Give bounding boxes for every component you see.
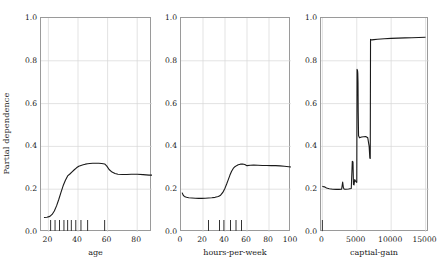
y-tick-label: 1.0	[295, 13, 317, 22]
decile-rug	[51, 220, 105, 231]
y-tick-label: 0.8	[295, 55, 317, 64]
plot-canvas	[41, 18, 152, 232]
y-axis-label: Partial dependence	[0, 0, 13, 267]
y-tick-label: 0.2	[15, 184, 37, 193]
y-tick-label: 0.8	[155, 55, 177, 64]
pdp-line	[322, 37, 425, 189]
pdp-line	[44, 163, 152, 217]
y-tick-label: 0.4	[15, 141, 37, 150]
y-tick-label: 0.6	[155, 98, 177, 107]
y-tick-label: 1.0	[15, 13, 37, 22]
x-axis-label: captial-gain	[350, 248, 398, 257]
plot-canvas	[321, 18, 429, 232]
y-tick-label: 0.2	[295, 184, 317, 193]
plot-area	[320, 17, 428, 231]
y-tick-label: 1.0	[155, 13, 177, 22]
y-tick-label: 0.6	[15, 98, 37, 107]
x-tick-label: 15000	[405, 235, 443, 244]
plot-canvas	[181, 18, 291, 232]
gridlines	[181, 18, 291, 232]
y-tick-label: 0.2	[155, 184, 177, 193]
x-axis-label: hours-per-week	[203, 248, 266, 257]
plot-area	[40, 17, 151, 231]
y-tick-label: 0.6	[295, 98, 317, 107]
partial-dependence-figure: Partial dependence 0.00.20.40.60.81.0204…	[0, 0, 443, 267]
plot-area	[180, 17, 290, 231]
gridlines	[321, 18, 429, 232]
y-tick-label: 0.4	[295, 141, 317, 150]
y-tick-label: 0.8	[15, 55, 37, 64]
x-axis-label: age	[88, 248, 103, 257]
y-tick-label: 0.4	[155, 141, 177, 150]
pdp-line	[182, 164, 291, 198]
gridlines	[41, 18, 152, 232]
x-tick-label: 80	[116, 235, 156, 244]
